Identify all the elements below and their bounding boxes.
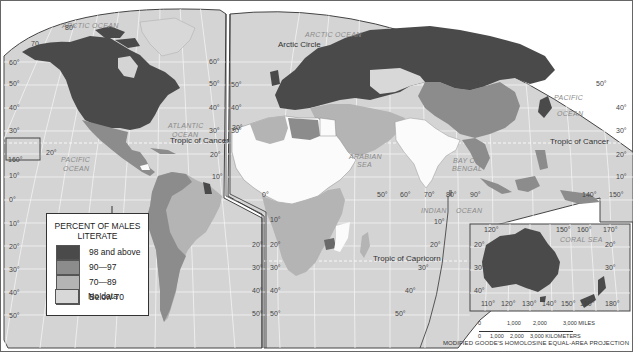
graticule-label: 70° (424, 191, 435, 198)
scale-tick: 1,000 (507, 320, 521, 326)
legend-item-90-97: 90—97 (56, 260, 146, 275)
graticule-label: 10° (212, 173, 223, 180)
graticule-label: 50° (395, 310, 406, 317)
graticule-label: 30° (209, 127, 220, 134)
graticule-label: 40° (209, 104, 220, 111)
ocean-label: CORAL SEA (560, 236, 603, 243)
graticule-label: 140° (542, 300, 557, 307)
graticule-label: 40° (405, 287, 416, 294)
legend-label: 98 and above (89, 247, 141, 257)
graticule-label: 170° (603, 226, 618, 233)
ocean-label: SEA (357, 161, 372, 168)
legend-item-98-above: 98 and above (56, 245, 146, 260)
graticule-label: 40° (9, 289, 20, 296)
graticule-label: 40° (9, 104, 20, 111)
graticule-label: 30° (418, 264, 429, 271)
graticule-label: 0° (9, 196, 16, 203)
graticule-label: 50° (252, 310, 263, 317)
graticule-label: 110° (481, 300, 495, 307)
feature-label: Tropic of Cancer (170, 136, 229, 145)
graticule-label: 40° (231, 104, 242, 111)
ocean-label: OCEAN (557, 110, 584, 117)
legend-title-line2: LITERATE (47, 231, 148, 241)
graticule-label: 30° (270, 264, 281, 271)
legend-title: PERCENT OF MALES LITERATE (47, 221, 148, 241)
legend-label: 90—97 (89, 262, 116, 272)
ocean-label: OCEAN (63, 165, 90, 172)
graticule-label: 0° (262, 191, 269, 198)
scale-miles: 0 1,000 2,000 3,000 MILES (478, 320, 633, 328)
legend-swatch (55, 289, 79, 304)
graticule-label: 30° (605, 264, 616, 271)
graticule-label: 50° (231, 81, 242, 88)
scale-tick: 2,000 (510, 333, 524, 339)
graticule-label: 60° (209, 58, 220, 65)
legend-item-no-data-row: No data (55, 289, 145, 304)
graticule-label: 40° (252, 287, 263, 294)
graticule-label: 30° (9, 266, 20, 273)
graticule-label: 70 (31, 40, 39, 47)
graticule-label: 10° (616, 173, 627, 180)
graticule-label: 30° (474, 264, 485, 271)
graticule-label: 50° (377, 191, 388, 198)
scale-tick: 2,000 (533, 320, 547, 326)
graticule-label: 150° (556, 226, 571, 233)
graticule-label: 10° (270, 216, 281, 223)
graticule-label: 40° (270, 287, 281, 294)
graticule-label: 90° (470, 191, 481, 198)
graticule-label: 40° (474, 287, 485, 294)
ocean-label: PACIFIC (61, 156, 91, 163)
scale-tick: 1,000 (490, 333, 504, 339)
graticule-label: 160° (580, 300, 595, 307)
graticule-label: 130° (522, 300, 537, 307)
feature-label: Tropic of Cancer (550, 137, 609, 146)
legend-label: No data (88, 291, 118, 301)
scale-tick: 0 (478, 333, 481, 339)
graticule-label: 20° (252, 241, 263, 248)
legend-label: 70—89 (89, 277, 116, 287)
ocean-label: OCEAN (456, 207, 483, 214)
graticule-label: 50° (596, 80, 607, 87)
graticule-label: 150° (561, 300, 576, 307)
graticule-label: 20° (270, 241, 281, 248)
graticule-label: 150° (609, 191, 624, 198)
projection-label: MODIFIED GOODE'S HOMOLOSINE EQUAL-AREA P… (443, 340, 629, 346)
graticule-label: 20° (210, 151, 221, 158)
graticule-label: 80° (65, 24, 76, 31)
graticule-label: 160° (577, 226, 592, 233)
graticule-label: 50° (270, 310, 281, 317)
graticule-label: 10° (9, 220, 20, 227)
ocean-label: ATLANTIC (167, 122, 204, 129)
legend-title-line1: PERCENT OF MALES (47, 221, 148, 231)
graticule-label: 20° (9, 243, 20, 250)
graticule-label: 140° (582, 191, 597, 198)
graticule-label: 40° (616, 104, 627, 111)
ocean-label: ARCTIC OCEAN (304, 31, 362, 38)
graticule-label: 120° (501, 300, 516, 307)
graticule-label: 50° (209, 80, 220, 87)
ocean-label: BENGAL (452, 165, 482, 172)
graticule-label: 80° (446, 191, 457, 198)
graticule-label: 60° (400, 191, 411, 198)
graticule-label: 10° (434, 218, 445, 225)
scale-tick: 3,000 MILES (563, 320, 595, 326)
graticule-label: 160° (8, 156, 23, 163)
graticule-label: 20° (474, 241, 485, 248)
graticule-label: 20° (430, 241, 441, 248)
feature-label: Tropic of Capricorn (373, 254, 441, 263)
scale-tick: 3,000 KILOMETERS (530, 333, 581, 339)
legend-swatch (56, 275, 80, 290)
graticule-label: 60° (9, 59, 20, 66)
ocean-label: ARABIAN (348, 153, 382, 160)
graticule-label: 120° (484, 226, 499, 233)
graticule-label: 30° (9, 127, 20, 134)
graticule-label: 20° (605, 241, 616, 248)
scale-bar: 0 1,000 2,000 3,000 MILES 0 1,000 2,000 … (478, 320, 633, 341)
graticule-label: 20° (46, 149, 57, 156)
scale-tick: 0 (478, 320, 481, 326)
graticule-label: 20° (616, 151, 627, 158)
legend-item-70-89: 70—89 (56, 275, 146, 290)
graticule-label: 10° (9, 172, 20, 179)
legend-swatch (56, 245, 80, 260)
ocean-label: INDIAN (421, 207, 447, 214)
